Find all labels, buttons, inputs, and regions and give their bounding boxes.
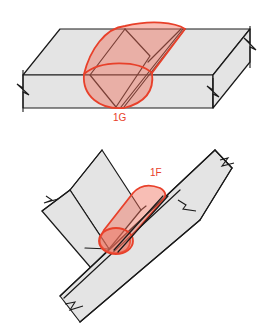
label-1g: 1G — [113, 113, 126, 123]
fillet-plate-assembly — [42, 150, 234, 322]
label-1f: 1F — [150, 168, 162, 178]
groove-weld-1g-figure — [0, 0, 268, 324]
